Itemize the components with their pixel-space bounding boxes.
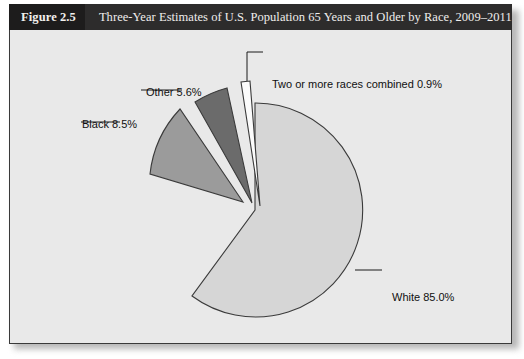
- figure-title: Three-Year Estimates of U.S. Population …: [85, 10, 512, 25]
- figure-number-label: Figure 2.5: [21, 10, 76, 25]
- chart-plot-area: Black 8.5% Other 5.6% Two or more races …: [10, 30, 511, 343]
- figure-screenshot: Figure 2.5 Three-Year Estimates of U.S. …: [0, 0, 524, 359]
- callout-label-black: Black 8.5%: [82, 119, 137, 130]
- callout-label-white: White 85.0%: [392, 292, 454, 303]
- callout-label-other: Other 5.6%: [146, 87, 202, 98]
- figure-number-box: Figure 2.5: [9, 4, 85, 30]
- callout-label-two-or-more: Two or more races combined 0.9%: [272, 79, 442, 90]
- figure-header-bar: Figure 2.5 Three-Year Estimates of U.S. …: [9, 4, 512, 30]
